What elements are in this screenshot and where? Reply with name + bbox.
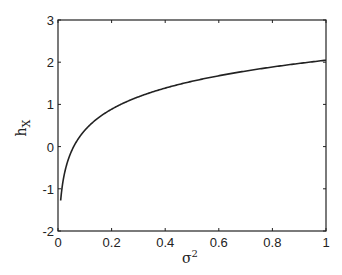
y-tick-label: 3 <box>47 13 54 28</box>
x-tick-label: 1 <box>322 235 329 250</box>
plot-area <box>58 20 326 231</box>
x-tick-label: 0.8 <box>263 235 281 250</box>
y-tick-label: 2 <box>47 55 54 70</box>
curve-layer <box>61 60 326 200</box>
y-tick-label: 0 <box>47 140 54 155</box>
ticks-layer <box>58 20 326 231</box>
x-axis-label: σ2 <box>182 248 198 266</box>
axes-box <box>58 20 326 231</box>
y-axis-label: hX <box>13 119 33 136</box>
x-tick-label: 0.6 <box>210 235 228 250</box>
y-tick-label: 1 <box>47 97 54 112</box>
line-chart: 00.20.40.60.81-2-10123 σ2 hX <box>0 0 342 275</box>
series-line-hx <box>61 60 326 200</box>
x-tick-label: 0.4 <box>156 235 174 250</box>
x-tick-label: 0 <box>54 235 61 250</box>
y-tick-label: -1 <box>42 182 54 197</box>
y-tick-label: -2 <box>42 224 54 239</box>
x-tick-label: 0.2 <box>103 235 121 250</box>
tick-labels: 00.20.40.60.81-2-10123 <box>42 13 329 250</box>
